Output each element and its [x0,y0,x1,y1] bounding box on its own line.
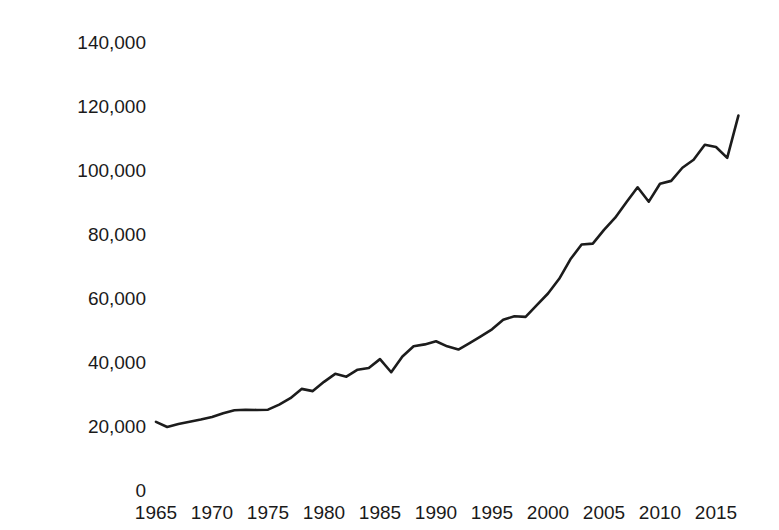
x-tick-label-1990: 1990 [415,503,457,522]
plot-area [0,0,779,530]
line-chart: US$ millions 020,00040,00060,00080,00010… [0,0,779,530]
data-line-series-value [156,116,738,427]
x-tick-label-1965: 1965 [135,503,177,522]
x-tick-label-1985: 1985 [359,503,401,522]
x-tick-label-1970: 1970 [191,503,233,522]
x-tick-label-2000: 2000 [527,503,569,522]
x-tick-label-1980: 1980 [303,503,345,522]
x-tick-label-2010: 2010 [639,503,681,522]
x-tick-label-2015: 2015 [695,503,737,522]
x-tick-label-1975: 1975 [247,503,289,522]
x-tick-label-2005: 2005 [583,503,625,522]
x-tick-label-1995: 1995 [471,503,513,522]
